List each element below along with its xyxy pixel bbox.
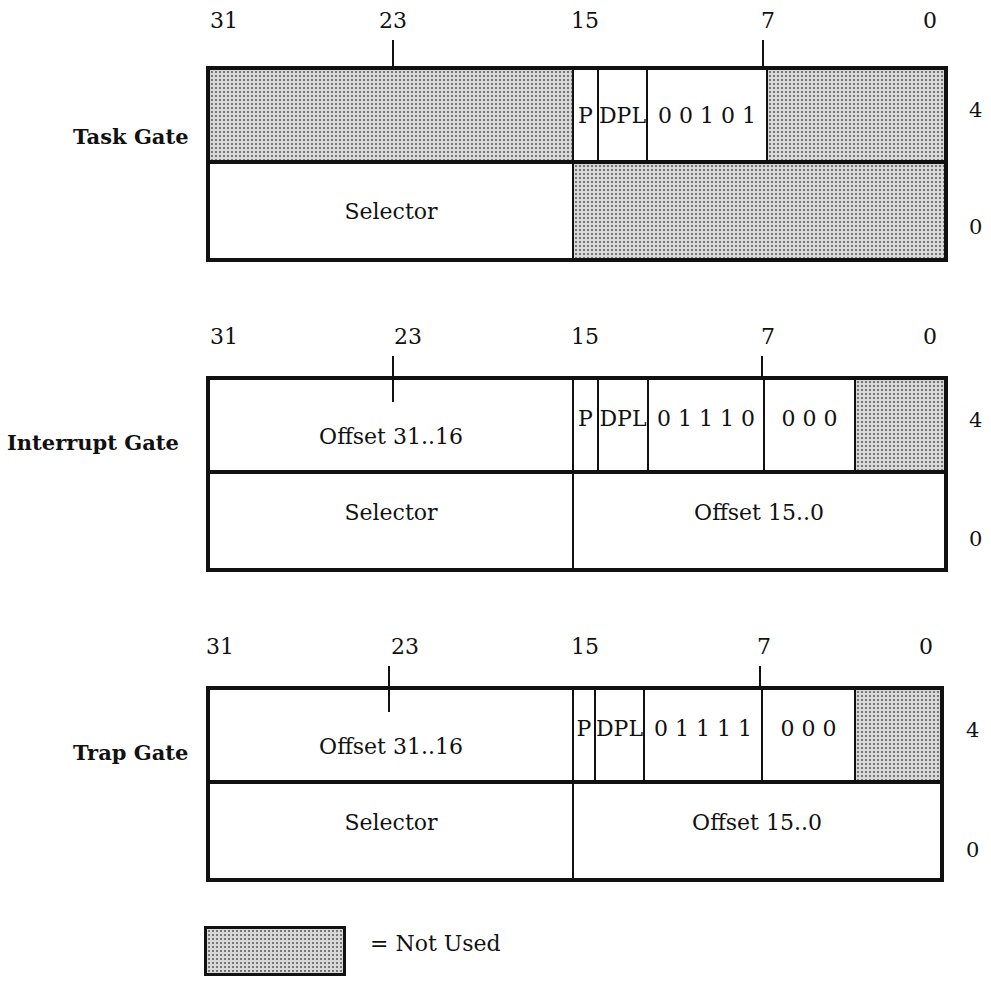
byte-offset-0: 0 [969,215,982,239]
bit-7-label: 7 [761,324,775,349]
bit-7-tick [762,40,764,68]
unused-field [854,380,944,470]
offset-low-field: Offset 15..0 [572,474,944,568]
offset-high-field: Offset 31..16 [210,380,572,470]
bit-15-label: 15 [571,8,599,33]
gate-name-interrupt: Interrupt Gate [7,430,179,455]
task-gate-upper-dword: P DPL 0 0 1 0 1 [206,66,948,164]
dpl-field: DPL [594,690,643,780]
type-bits-field: 0 1 1 1 1 [643,690,761,780]
bit-15-label: 15 [571,634,599,659]
trap-gate-upper-dword: Offset 31..16 P DPL 0 1 1 1 1 0 0 0 [206,686,944,784]
bit-7-label: 7 [757,634,771,659]
unused-field [854,690,940,780]
type-bits-field: 0 1 1 1 0 [647,380,763,470]
unused-field [766,70,944,160]
dpl-field: DPL [597,380,647,470]
interrupt-gate-upper-dword: Offset 31..16 P DPL 0 1 1 1 0 0 0 0 [206,376,948,474]
type-bits-field: 0 0 1 0 1 [646,70,766,160]
trap-gate-lower-dword: Selector Offset 15..0 [206,780,944,882]
bit-31-label: 31 [210,324,238,349]
bit-31-label: 31 [210,8,238,33]
dpl-field: DPL [597,70,646,160]
gate-name-trap: Trap Gate [73,740,188,765]
byte-offset-4: 4 [966,718,979,742]
byte-offset-4: 4 [969,408,982,432]
unused-field [210,70,572,160]
bit-0-label: 0 [923,8,937,33]
reserved-bits-field: 0 0 0 [763,380,854,470]
selector-field: Selector [210,164,572,258]
bit-7-label: 7 [761,8,775,33]
unused-field [572,164,944,258]
offset-high-field: Offset 31..16 [210,690,572,780]
bit-23-label: 23 [379,8,407,33]
bit-7-tick [761,356,763,378]
present-bit-field: P [572,70,597,160]
byte-offset-4: 4 [969,98,982,122]
bit-0-label: 0 [919,634,933,659]
legend-not-used-label: = Not Used [370,931,501,956]
byte-offset-0: 0 [969,527,982,551]
bit-31-label: 31 [206,634,234,659]
interrupt-gate-lower-dword: Selector Offset 15..0 [206,470,948,572]
bit-23-tick [392,40,394,68]
reserved-bits-field: 0 0 0 [761,690,854,780]
byte-offset-0: 0 [966,838,979,862]
selector-field: Selector [210,784,572,878]
bit-0-label: 0 [923,324,937,349]
bit-23-label: 23 [391,634,419,659]
selector-field: Selector [210,474,572,568]
gate-name-task: Task Gate [73,124,189,149]
task-gate-lower-dword: Selector [206,160,948,262]
offset-low-field: Offset 15..0 [572,784,940,878]
bit-15-label: 15 [571,324,599,349]
present-bit-field: P [572,380,597,470]
present-bit-field: P [572,690,594,780]
bit-23-label: 23 [394,324,422,349]
bit-7-tick [759,666,761,688]
legend-not-used-swatch [204,926,346,976]
